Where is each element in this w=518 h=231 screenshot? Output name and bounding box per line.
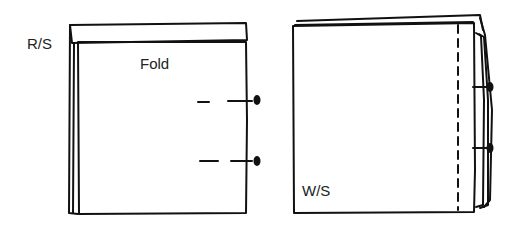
- fold-label: Fold: [140, 56, 169, 71]
- pin-head-icon: [487, 143, 494, 153]
- pin-head-icon: [487, 82, 494, 92]
- right-side-label: R/S: [27, 36, 52, 51]
- left-fabric-panel: [69, 23, 247, 214]
- pin-head-icon: [254, 156, 261, 166]
- pin-left-top: [198, 101, 252, 102]
- wrong-side-label: W/S: [302, 183, 330, 198]
- pin-head-icon: [254, 95, 261, 105]
- diagram-canvas: [0, 0, 518, 231]
